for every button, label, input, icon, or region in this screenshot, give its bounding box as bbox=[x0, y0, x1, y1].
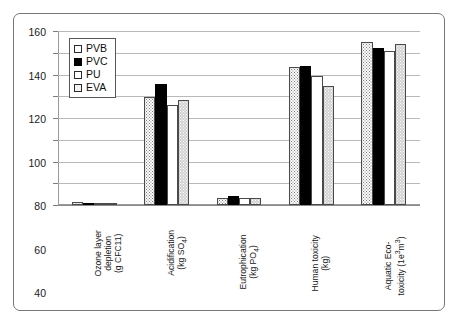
bar bbox=[144, 97, 155, 205]
bar bbox=[311, 76, 322, 205]
chart-legend: PVBPVCPUEVA bbox=[69, 38, 116, 98]
bar-group bbox=[203, 31, 275, 205]
bar bbox=[217, 198, 228, 205]
bar-group bbox=[275, 31, 347, 205]
y-axis-label: 120 bbox=[28, 114, 46, 125]
bar bbox=[289, 67, 300, 205]
x-axis-label: Eutrophication(kg PO4) bbox=[239, 234, 261, 289]
bar-group bbox=[348, 31, 420, 205]
y-axis-label: 160 bbox=[28, 27, 46, 38]
bar bbox=[72, 202, 83, 205]
bar bbox=[300, 66, 311, 205]
bar bbox=[178, 100, 189, 205]
legend-swatch-icon bbox=[74, 84, 82, 92]
y-axis-tick: 0 bbox=[53, 205, 58, 206]
legend-swatch-icon bbox=[74, 45, 82, 53]
bar bbox=[323, 86, 334, 205]
x-axis-label: Aquatic Eco-toxicity (1e3m3) bbox=[384, 236, 407, 295]
legend-item-pvc: PVC bbox=[74, 55, 108, 68]
bar bbox=[384, 51, 395, 205]
legend-label: PVC bbox=[86, 56, 108, 67]
bar bbox=[239, 198, 250, 205]
bar bbox=[395, 44, 406, 205]
bar bbox=[105, 203, 116, 205]
legend-item-pu: PU bbox=[74, 68, 108, 81]
gridline bbox=[58, 205, 420, 206]
y-axis-label: 40 bbox=[34, 288, 46, 299]
y-axis-label: 140 bbox=[28, 70, 46, 81]
y-axis-label: 100 bbox=[28, 157, 46, 168]
legend-label: PVB bbox=[86, 43, 107, 54]
chart-frame: 020406080100120140160 Ozone layerdepleti… bbox=[13, 13, 445, 311]
x-axis-label: Ozone layerdepletion(g CFC11) bbox=[94, 230, 124, 276]
legend-item-pvb: PVB bbox=[74, 42, 108, 55]
bar bbox=[94, 203, 105, 205]
y-axis-label: 80 bbox=[34, 201, 46, 212]
legend-swatch-icon bbox=[74, 58, 82, 66]
bar-group bbox=[130, 31, 202, 205]
bar bbox=[228, 196, 239, 205]
bar bbox=[167, 105, 178, 205]
bar bbox=[373, 48, 384, 205]
bar bbox=[250, 198, 261, 205]
bar bbox=[155, 84, 166, 205]
legend-swatch-icon bbox=[74, 71, 82, 79]
legend-label: PU bbox=[86, 69, 101, 80]
bar bbox=[361, 42, 372, 205]
legend-item-eva: EVA bbox=[74, 81, 108, 94]
y-axis-label: 60 bbox=[34, 244, 46, 255]
x-axis-label: Acidification(kg SO4) bbox=[167, 230, 189, 276]
legend-label: EVA bbox=[86, 82, 106, 93]
bar bbox=[83, 203, 94, 205]
x-axis-label: Human toxicity(kg) bbox=[311, 235, 331, 291]
